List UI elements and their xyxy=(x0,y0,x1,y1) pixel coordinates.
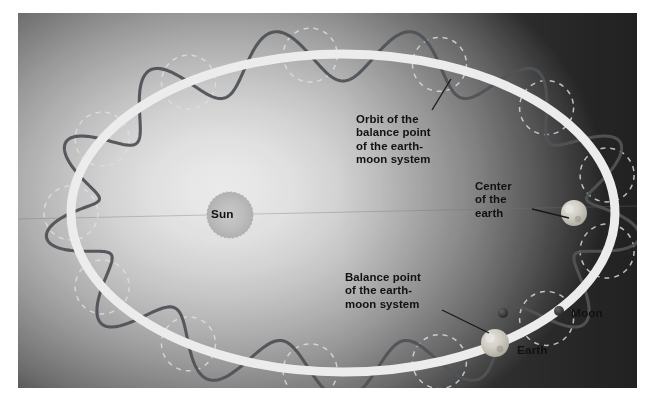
label-orbit-caption: Orbit of the balance point of the earth-… xyxy=(356,113,431,167)
illustration-canvas: Sun Orbit of the balance point of the ea… xyxy=(0,0,655,401)
earth-body-bottom xyxy=(481,329,509,357)
balance-point-orbit-ellipse xyxy=(71,54,615,372)
label-moon: Moon xyxy=(571,307,603,320)
earth-body-right xyxy=(561,200,587,226)
label-earth: Earth xyxy=(517,344,548,357)
earth-wavy-path xyxy=(46,32,637,388)
orbit-graphics xyxy=(18,13,637,388)
label-center-of-earth: Center of the earth xyxy=(475,180,512,220)
label-sun: Sun xyxy=(211,208,234,221)
moon-body-far xyxy=(554,306,564,316)
leader-line-balance-point xyxy=(442,310,489,333)
label-balance-point: Balance point of the earth- moon system xyxy=(345,271,421,311)
film-grain xyxy=(18,13,637,388)
leader-line-orbit xyxy=(432,79,451,110)
photo-frame: Sun Orbit of the balance point of the ea… xyxy=(18,13,637,388)
moon-body-near xyxy=(498,308,508,318)
